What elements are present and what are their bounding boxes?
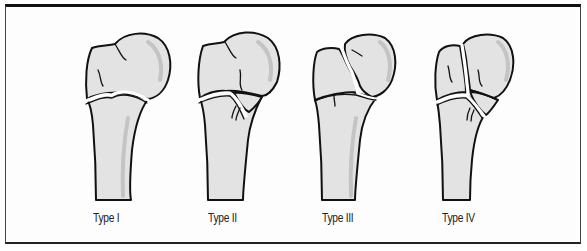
label-type-3: Type III [322,211,353,225]
head-fragment-type-4 [463,35,513,98]
fracture-diagram: .bone { fill:#e3e3e3; stroke:#111; strok… [0,0,587,251]
label-type-2: Type II [208,211,237,225]
bone-type-2 [198,32,279,200]
head-type-1 [86,34,170,99]
head-type-2 [198,32,279,98]
bone-type-4 [435,35,513,200]
bone-type-1 [86,34,170,200]
bone-type-3 [313,35,395,200]
label-type-1: Type I [93,211,119,225]
shaft-type-1 [87,94,148,200]
greater-tuberosity-type-4 [435,45,466,100]
label-type-4: Type IV [442,211,475,225]
shaft-type-3 [315,91,376,200]
